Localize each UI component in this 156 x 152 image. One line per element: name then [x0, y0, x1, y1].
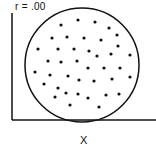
- data-point: [53, 95, 56, 98]
- data-point: [56, 47, 59, 50]
- data-point: [75, 59, 78, 62]
- data-point: [95, 54, 98, 57]
- scatter-plot: [0, 0, 156, 152]
- data-point: [86, 96, 89, 99]
- correlation-envelope-circle: [25, 8, 139, 122]
- data-point: [42, 82, 45, 85]
- data-point: [65, 35, 68, 38]
- data-point: [92, 79, 95, 82]
- data-point: [102, 66, 105, 69]
- data-point: [86, 66, 89, 69]
- data-point: [110, 77, 113, 80]
- data-point: [76, 92, 79, 95]
- data-point: [56, 86, 59, 89]
- data-point: [72, 47, 75, 50]
- data-point: [128, 75, 131, 78]
- data-point: [76, 18, 79, 21]
- data-point: [117, 92, 120, 95]
- data-point: [128, 53, 131, 56]
- data-point: [48, 73, 51, 76]
- data-point: [68, 103, 71, 106]
- data-point: [97, 105, 100, 108]
- data-point: [116, 44, 119, 47]
- data-point: [118, 66, 121, 69]
- data-point: [33, 70, 36, 73]
- data-point: [66, 74, 69, 77]
- data-point: [77, 78, 80, 81]
- data-point: [99, 38, 102, 41]
- data-point: [87, 49, 90, 52]
- data-point: [36, 47, 39, 50]
- x-axis-label: X: [80, 134, 87, 146]
- data-point: [59, 60, 62, 63]
- data-point: [107, 26, 110, 29]
- data-point: [115, 33, 118, 36]
- data-point: [104, 93, 107, 96]
- data-point: [59, 23, 62, 26]
- data-point: [93, 20, 96, 23]
- data-point: [64, 91, 67, 94]
- data-point: [46, 59, 49, 62]
- data-points: [33, 18, 131, 108]
- data-point: [50, 36, 53, 39]
- data-point: [109, 52, 112, 55]
- data-point: [82, 36, 85, 39]
